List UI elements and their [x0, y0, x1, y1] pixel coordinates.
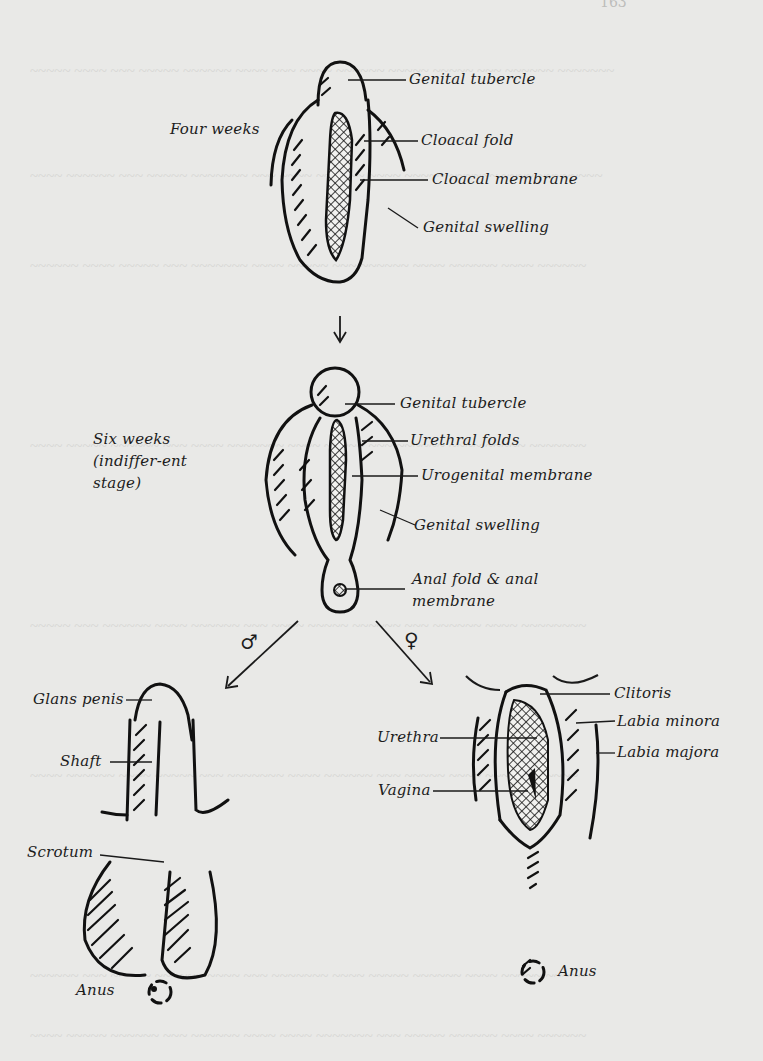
label-anus-female: Anus	[558, 962, 597, 980]
stage-title-six-weeks: Six weeks (indiffer-ent stage)	[93, 428, 233, 494]
label-anal-fold-membrane: Anal fold & anal membrane	[412, 568, 552, 612]
label-urethral-folds: Urethral folds	[410, 431, 520, 449]
label-genital-swelling-4w: Genital swelling	[423, 218, 549, 236]
embryology-diagram	[0, 0, 763, 1061]
label-genital-swelling-6w: Genital swelling	[414, 516, 540, 534]
label-labia-minora: Labia minora	[617, 712, 720, 730]
stage-title-four-weeks: Four weeks	[170, 120, 260, 138]
label-genital-tubercle-6w: Genital tubercle	[400, 394, 526, 412]
label-anus-male: Anus	[76, 981, 115, 999]
label-labia-majora: Labia majora	[617, 743, 719, 761]
label-glans-penis: Glans penis	[33, 690, 124, 708]
label-cloacal-fold: Cloacal fold	[421, 131, 514, 149]
label-urethra: Urethra	[377, 728, 439, 746]
label-urogenital-membrane: Urogenital membrane	[421, 466, 593, 484]
male-figure	[84, 684, 228, 1003]
four-weeks-figure	[271, 62, 428, 342]
label-scrotum: Scrotum	[27, 843, 93, 861]
female-symbol-icon: ♀	[404, 628, 419, 652]
male-symbol-icon: ♂	[240, 630, 258, 654]
label-vagina: Vagina	[378, 781, 431, 799]
female-figure	[433, 675, 615, 983]
label-shaft: Shaft	[60, 752, 101, 770]
label-cloacal-membrane: Cloacal membrane	[432, 170, 578, 188]
label-clitoris: Clitoris	[614, 684, 671, 702]
label-genital-tubercle-4w: Genital tubercle	[409, 70, 535, 88]
